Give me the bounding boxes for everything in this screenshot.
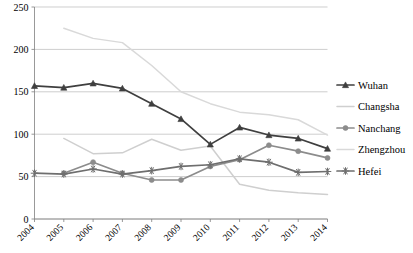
legend-item-wuhan[interactable]: Wuhan [337,80,389,91]
legend-item-nanchang[interactable]: Nanchang [337,123,401,134]
data-point-marker [90,166,97,173]
data-series [31,28,331,194]
chart-canvas: 050100150200250 200420052006200720082009… [0,0,413,253]
data-point-marker [91,160,96,165]
legend-item-changsha[interactable]: Changsha [337,101,400,112]
y-tick-label: 50 [19,171,29,182]
x-tick-label: 2004 [15,222,36,243]
data-point-marker [31,170,38,177]
legend-label: Wuhan [358,80,389,91]
y-tick-label: 250 [14,2,29,13]
line-chart: 050100150200250 200420052006200720082009… [0,0,413,253]
x-tick-label: 2007 [103,222,124,243]
data-point-marker [296,149,301,154]
x-axis-tick-labels: 2004200520062007200820092010201120122013… [15,222,329,243]
chart-legend: WuhanChangshaNanchangZhengzhouHefei [337,80,406,177]
legend-label: Zhengzhou [358,144,406,155]
legend-label: Hefei [358,166,381,177]
x-tick-label: 2008 [133,222,154,243]
data-point-marker [178,163,185,170]
x-tick-label: 2006 [74,222,95,243]
x-tick-label: 2009 [162,222,183,243]
axes [32,7,328,222]
series-zhengzhou [64,28,328,135]
y-tick-label: 100 [14,129,29,140]
data-point-marker [236,155,243,162]
y-axis-tick-labels: 050100150200250 [14,2,29,225]
data-point-marker [342,168,349,175]
legend-label: Changsha [358,101,400,112]
y-tick-label: 150 [14,86,29,97]
legend-item-hefei[interactable]: Hefei [337,166,381,177]
x-tick-label: 2014 [308,222,329,243]
series-hefei [31,155,331,177]
data-point-marker [295,169,302,176]
gridlines [35,7,328,219]
series-line-nanchang [64,145,328,180]
data-point-marker [179,177,184,182]
data-point-marker [343,126,348,131]
x-tick-label: 2011 [221,222,241,242]
legend-item-zhengzhou[interactable]: Zhengzhou [337,144,406,155]
data-point-marker [148,167,155,174]
x-tick-label: 2005 [45,222,66,243]
legend-label: Nanchang [358,123,401,134]
x-tick-label: 2010 [191,222,212,243]
data-point-marker [325,155,330,160]
x-tick-label: 2012 [250,222,271,243]
y-tick-label: 200 [14,44,29,55]
data-point-marker [266,159,273,166]
data-point-marker [324,168,331,175]
data-point-marker [149,177,154,182]
x-tick-label: 2013 [279,222,300,243]
data-point-marker [266,143,271,148]
series-line-zhengzhou [64,28,328,135]
